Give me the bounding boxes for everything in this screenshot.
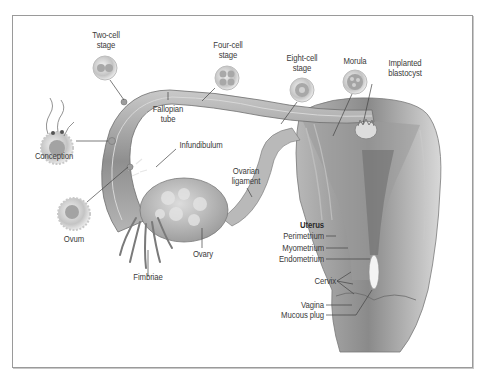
label-fimbriae: Fimbriae bbox=[128, 272, 168, 282]
label-line: ligament bbox=[228, 176, 264, 186]
eight-cell-stage-icon bbox=[290, 78, 314, 102]
label-line: Ovarian bbox=[228, 166, 264, 176]
label-line: blastocyst bbox=[383, 68, 428, 78]
label-line: tube bbox=[150, 114, 186, 124]
label-line: Eight-cell bbox=[282, 53, 322, 63]
label-line: Implanted bbox=[383, 58, 428, 68]
label-cervix: Cervix bbox=[295, 276, 336, 286]
label-implanted-blastocyst: Implanted blastocyst bbox=[383, 58, 428, 78]
label-four-cell-stage: Four-cell stage bbox=[208, 40, 248, 60]
label-perimetrium: Perimetrium bbox=[270, 231, 324, 241]
label-line: stage bbox=[282, 63, 322, 73]
label-eight-cell-stage: Eight-cell stage bbox=[282, 53, 322, 73]
label-two-cell-stage: Two-cell stage bbox=[88, 30, 124, 50]
label-line: Two-cell bbox=[88, 30, 124, 40]
label-ovary: Ovary bbox=[188, 249, 219, 259]
label-vagina: Vagina bbox=[270, 300, 324, 310]
label-infundibulum: Infundibulum bbox=[179, 140, 224, 150]
label-line: stage bbox=[88, 40, 124, 50]
label-morula: Morula bbox=[336, 56, 374, 66]
label-fallopian-tube: Fallopian tube bbox=[150, 104, 186, 124]
label-endometrium: Endometrium bbox=[270, 254, 324, 264]
label-line: stage bbox=[208, 50, 248, 60]
label-uterus-heading: Uterus bbox=[270, 220, 324, 230]
label-ovarian-ligament: Ovarian ligament bbox=[228, 166, 264, 186]
label-line: Four-cell bbox=[208, 40, 248, 50]
label-conception: Conception bbox=[32, 151, 75, 161]
two-cell-stage-icon bbox=[93, 56, 117, 80]
label-myometrium: Myometrium bbox=[270, 243, 324, 253]
label-ovum: Ovum bbox=[58, 234, 90, 244]
label-mucous-plug: Mucous plug bbox=[270, 310, 324, 320]
label-line: Fallopian bbox=[150, 104, 186, 114]
four-cell-stage-icon bbox=[215, 66, 239, 90]
morula-icon bbox=[343, 70, 367, 94]
ovum-icon bbox=[58, 198, 90, 230]
